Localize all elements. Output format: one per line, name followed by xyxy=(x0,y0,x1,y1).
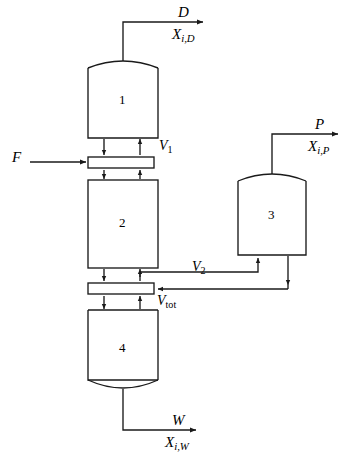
vapor-V2-subscript: 2 xyxy=(201,265,206,276)
stream-W-label: W xyxy=(172,413,185,428)
stream-P-composition-label: Xi,P xyxy=(308,139,329,156)
vessel-4-label: 4 xyxy=(119,341,126,354)
stream-P-label: P xyxy=(315,117,324,132)
vessel-1-label: 1 xyxy=(119,93,126,106)
stream-D-composition-label: Xi,D xyxy=(172,27,195,44)
vapor-V2-base: V xyxy=(192,259,201,274)
tray-1-body xyxy=(88,157,154,168)
comp-D-base: X xyxy=(172,26,181,42)
tray-2-body xyxy=(88,283,154,294)
flowsheet-canvas xyxy=(0,0,364,466)
stream-W-line xyxy=(123,389,196,430)
vapor-V1-subscript: 1 xyxy=(168,144,173,155)
comp-D-subscript: i,D xyxy=(181,32,195,44)
process-flow-diagram: 1 2 3 4 D Xi,D F P Xi,P W Xi,W V1 V2 Vto… xyxy=(0,0,364,466)
comp-P-base: X xyxy=(308,138,317,154)
comp-P-subscript: i,P xyxy=(317,144,329,156)
vapor-Vtot-base: V xyxy=(157,293,166,308)
stream-F-label: F xyxy=(12,150,21,165)
vessel-3-label: 3 xyxy=(268,208,275,221)
comp-W-subscript: i,W xyxy=(174,440,189,452)
vapor-V2-label: V2 xyxy=(192,260,206,276)
vapor-V1-base: V xyxy=(159,138,168,153)
vapor-V1-label: V1 xyxy=(159,139,173,155)
vessel-2-label: 2 xyxy=(119,216,126,229)
comp-W-base: X xyxy=(165,434,174,450)
stream-D-label: D xyxy=(178,5,189,20)
stream-W-composition-label: Xi,W xyxy=(165,435,189,452)
vapor-Vtot-label: Vtot xyxy=(157,294,176,310)
vapor-Vtot-subscript: tot xyxy=(166,299,177,310)
